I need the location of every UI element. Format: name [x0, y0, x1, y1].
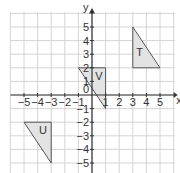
x-tick-label: 2	[116, 96, 122, 108]
shape-label-v: V	[95, 70, 103, 82]
shape-label-t: T	[136, 46, 143, 58]
y-tick-label: −3	[76, 130, 89, 142]
y-tick-label: 2	[83, 62, 89, 74]
y-axis-arrow-icon	[89, 8, 95, 13]
y-tick-label: −4	[76, 143, 89, 155]
x-tick-label: 3	[130, 96, 136, 108]
grid-lines	[10, 12, 175, 173]
x-tick-label: −5	[18, 96, 31, 108]
shape-label-u: U	[39, 124, 47, 136]
y-tick-label: 4	[83, 35, 89, 47]
y-tick-label: 1	[83, 75, 89, 87]
y-tick-label: −5	[76, 157, 89, 169]
x-axis-label: x	[176, 94, 180, 106]
x-tick-label: 1	[103, 96, 109, 108]
x-tick-label: −3	[45, 96, 58, 108]
y-tick-label: 3	[83, 48, 89, 60]
y-axis-label: y	[83, 1, 89, 13]
y-tick-label: 5	[83, 21, 89, 33]
x-tick-label: 4	[143, 96, 149, 108]
y-tick-label: −1	[76, 103, 89, 115]
coordinate-grid: xy0−5−4−3−2−11234554321−1−2−3−4−5TVU	[0, 0, 180, 173]
x-tick-label: −2	[59, 96, 72, 108]
x-tick-label: −4	[31, 96, 44, 108]
y-tick-label: −2	[76, 116, 89, 128]
x-tick-label: 5	[157, 96, 163, 108]
